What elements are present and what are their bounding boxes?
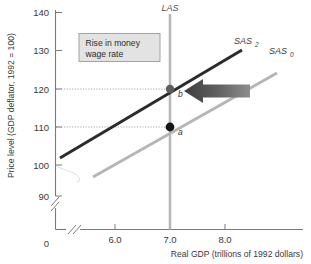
y-origin-label: 0 — [44, 238, 49, 249]
chart-figure: 140 130 120 110 100 90 0 6.0 7.0 8.0 Rea… — [0, 0, 311, 264]
svg-text:2: 2 — [254, 41, 259, 48]
sas2-curve — [60, 50, 242, 158]
aggregate-supply-chart: 140 130 120 110 100 90 0 6.0 7.0 8.0 Rea… — [0, 0, 311, 264]
y-tick-label-140: 140 — [33, 7, 49, 18]
shift-arrow-icon — [184, 79, 250, 103]
leader-line-artifact — [56, 166, 80, 183]
note-line-1: Rise in money — [86, 38, 141, 48]
y-tick-label-110: 110 — [34, 122, 49, 133]
note-line-2: wage rate — [85, 49, 124, 59]
y-tick-label-130: 130 — [33, 45, 49, 56]
svg-text:SAS: SAS — [234, 36, 252, 46]
x-tick-label-8: 8.0 — [218, 234, 231, 245]
svg-text:SAS: SAS — [269, 46, 287, 56]
x-tick-label-6: 6.0 — [108, 234, 121, 245]
x-axis — [56, 225, 304, 234]
las-curve-label: LAS — [161, 3, 178, 13]
y-tick-label-90: 90 — [38, 191, 49, 202]
note-box: Rise in money wage rate — [79, 34, 160, 62]
y-tick-label-100: 100 — [33, 160, 49, 171]
sas0-curve-label: SAS 0 — [269, 46, 294, 58]
y-axis-title: Price level (GDP deflator, 1992 = 100) — [6, 33, 16, 178]
point-a-label: a — [178, 127, 183, 137]
y-axis — [51, 10, 59, 230]
y-tick-label-120: 120 — [33, 84, 49, 95]
svg-text:0: 0 — [290, 51, 294, 58]
x-axis-title: Real GDP (trillions of 1992 dollars) — [171, 249, 303, 259]
point-b-label: b — [178, 89, 183, 99]
sas2-curve-label: SAS 2 — [234, 36, 259, 48]
x-tick-label-7: 7.0 — [163, 234, 176, 245]
x-axis-break-icon — [68, 225, 81, 234]
